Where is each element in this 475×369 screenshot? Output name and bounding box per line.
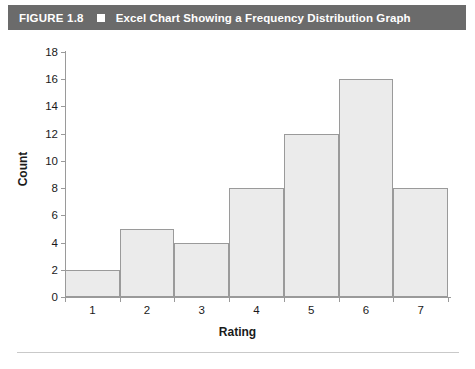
bar [393,188,448,297]
x-axis-title: Rating [0,325,475,339]
x-axis-tick [393,297,394,302]
frequency-distribution-chart: Count 024681012141618 1234567 Rating [0,30,475,352]
x-axis-tick-label: 3 [182,304,222,316]
x-axis-tick [65,297,66,302]
y-axis-tick-label: 14 [14,100,58,112]
y-axis-tick-label: 0 [14,291,58,303]
y-axis-tick-label: 2 [14,264,58,276]
figure-caption-bar: FIGURE 1.8 Excel Chart Showing a Frequen… [8,5,466,30]
figure-number: FIGURE 1.8 [19,12,84,24]
figure-title: Excel Chart Showing a Frequency Distribu… [116,12,411,24]
x-axis-tick-label: 7 [401,304,441,316]
y-axis-tick-label: 4 [14,237,58,249]
x-axis-tick-label: 5 [291,304,331,316]
y-axis-tick-label: 12 [14,128,58,140]
y-axis-tick-label: 6 [14,209,58,221]
y-axis-tick-label: 16 [14,73,58,85]
plot-area [65,52,448,297]
bar [120,229,175,297]
x-axis-tick [448,297,449,302]
x-axis-tick [229,297,230,302]
bar [339,79,394,297]
x-axis-tick-label: 4 [237,304,277,316]
x-axis-tick-label: 1 [72,304,112,316]
bar [229,188,284,297]
bar [174,243,229,297]
y-axis-tick-label: 8 [14,182,58,194]
y-axis-tick-label: 18 [14,46,58,58]
x-axis-tick [120,297,121,302]
bottom-divider [17,352,459,353]
bar [65,270,120,297]
x-axis-tick [284,297,285,302]
filled-square-icon [97,14,105,22]
x-axis-tick-label: 6 [346,304,386,316]
y-axis-tick-label: 10 [14,155,58,167]
x-axis-tick-label: 2 [127,304,167,316]
x-axis-tick [339,297,340,302]
x-axis-tick [174,297,175,302]
bar [284,134,339,297]
y-axis-title: Count [16,129,30,209]
